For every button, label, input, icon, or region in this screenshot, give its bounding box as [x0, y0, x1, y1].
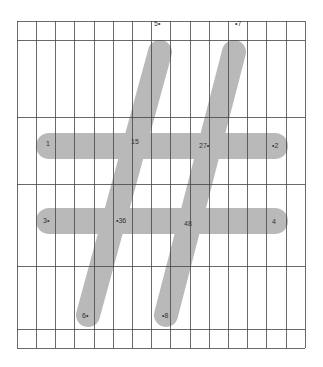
- point-label: 48: [184, 220, 192, 227]
- stroke-right-slant: [166, 52, 234, 315]
- point-label: 27•: [199, 142, 209, 149]
- point-label: •8: [162, 312, 168, 319]
- point-label: 4: [272, 218, 276, 225]
- point-label: •36: [116, 217, 126, 224]
- point-label: •7: [235, 20, 241, 27]
- point-label: •2: [272, 142, 278, 149]
- point-label: 1: [46, 140, 50, 147]
- glyph-strokes: [49, 52, 275, 315]
- point-label: 6•: [82, 312, 88, 319]
- point-label: 15: [131, 138, 139, 145]
- stroke-left-slant: [88, 52, 160, 315]
- point-label: 3•: [43, 217, 49, 224]
- point-label: 5•: [154, 20, 160, 27]
